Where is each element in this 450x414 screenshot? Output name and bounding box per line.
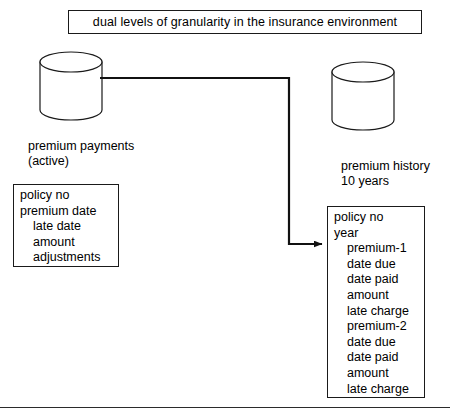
attribute-item: adjustments — [20, 250, 116, 266]
diagram-canvas: dual levels of granularity in the insura… — [0, 0, 450, 414]
attribute-item: late date — [20, 219, 116, 235]
attribute-item: date due — [334, 257, 424, 273]
attribute-item: premium date — [20, 204, 116, 220]
attribute-item: premium-1 — [334, 241, 424, 257]
store-label-history: premium history 10 years — [341, 159, 430, 188]
attribute-item: amount — [334, 366, 424, 382]
attribute-item: policy no — [20, 188, 116, 204]
page-bottom-rule — [0, 407, 450, 408]
page-title: dual levels of granularity in the insura… — [68, 10, 422, 34]
attribute-item: policy no — [334, 210, 424, 226]
attribute-item: date due — [334, 335, 424, 351]
attribute-item: amount — [20, 235, 116, 251]
database-cylinder-icon-active — [40, 52, 102, 120]
attribute-item: premium-2 — [334, 319, 424, 335]
attribute-item: late charge — [334, 382, 424, 398]
attribute-list-history: policy noyearpremium-1date duedate paida… — [334, 210, 424, 397]
database-cylinder-icon-history — [332, 62, 394, 130]
attribute-list-active: policy nopremium datelate dateamountadju… — [20, 188, 116, 266]
store-label-active: premium payments (active) — [28, 139, 134, 168]
attribute-item: date paid — [334, 272, 424, 288]
attribute-item: late charge — [334, 304, 424, 320]
attribute-item: date paid — [334, 350, 424, 366]
attribute-item: amount — [334, 288, 424, 304]
attribute-item: year — [334, 226, 424, 242]
